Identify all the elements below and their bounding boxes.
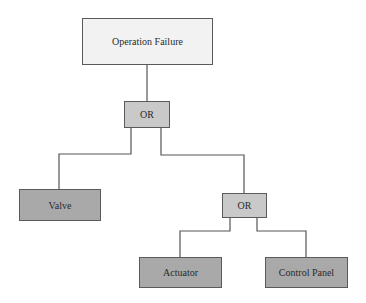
or-gate-2-label: OR xyxy=(238,200,252,211)
fault-tree-diagram: Operation Failure OR Valve OR Actuator C… xyxy=(0,0,366,303)
or-gate-1-label: OR xyxy=(140,109,154,120)
edge-or1-to-or2 xyxy=(161,127,244,193)
event-valve: Valve xyxy=(19,189,101,221)
event-control-panel-label: Control Panel xyxy=(279,267,334,278)
event-control-panel: Control Panel xyxy=(265,257,348,288)
top-event-operation-failure: Operation Failure xyxy=(82,18,213,65)
edge-or2-to-actuator xyxy=(180,217,230,257)
event-actuator-label: Actuator xyxy=(163,267,198,278)
or-gate-1: OR xyxy=(124,101,170,128)
edge-or1-to-valve xyxy=(59,127,131,189)
event-actuator: Actuator xyxy=(139,257,222,288)
event-valve-label: Valve xyxy=(49,200,72,211)
top-event-label: Operation Failure xyxy=(112,36,183,47)
or-gate-2: OR xyxy=(222,193,267,218)
edge-or2-to-control-panel xyxy=(257,217,306,257)
